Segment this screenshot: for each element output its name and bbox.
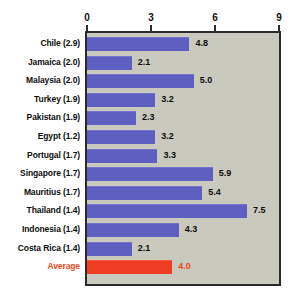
- bar-value-label: 2.3: [142, 112, 155, 123]
- bar-value-label: 5.4: [208, 187, 221, 198]
- bar: [87, 149, 157, 163]
- category-label: Egypt (1.2): [0, 131, 80, 142]
- bar-value-label: 2.1: [138, 57, 151, 68]
- bar-row: Pakistan (1.9)2.3: [0, 109, 293, 127]
- category-label: Mauritius (1.7): [0, 187, 80, 198]
- category-label: Indonesia (1.4): [0, 224, 80, 235]
- bar-value-label: 3.3: [163, 150, 176, 161]
- bar-value-label: 4.3: [185, 224, 198, 235]
- bar-row: Turkey (1.9)3.2: [0, 91, 293, 109]
- bar-row: Singapore (1.7)5.9: [0, 165, 293, 183]
- category-label: Malaysia (2.0): [0, 75, 80, 86]
- category-label: Costa Rica (1.4): [0, 243, 80, 254]
- bar-value-label: 5.0: [200, 75, 213, 86]
- bar-row: Thailand (1.4)7.5: [0, 202, 293, 220]
- bar: [87, 204, 247, 218]
- bar: [87, 93, 155, 107]
- bar: [87, 186, 202, 200]
- bar-value-label: 4.0: [178, 261, 191, 272]
- category-label-average: Average: [0, 261, 80, 272]
- bar-row: Portugal (1.7)3.3: [0, 147, 293, 165]
- bar-value-label: 2.1: [138, 243, 151, 254]
- x-axis-tick-label: 3: [148, 12, 154, 23]
- x-axis-tick-label: 9: [276, 12, 282, 23]
- bar-row: Average4.0: [0, 258, 293, 276]
- category-label: Portugal (1.7): [0, 150, 80, 161]
- bar: [87, 111, 136, 125]
- bar-row: Egypt (1.2)3.2: [0, 128, 293, 146]
- bar-value-label: 3.2: [161, 94, 174, 105]
- category-label: Singapore (1.7): [0, 168, 80, 179]
- bar: [87, 242, 132, 256]
- bar: [87, 37, 189, 51]
- bar: [87, 56, 132, 70]
- category-label: Turkey (1.9): [0, 94, 80, 105]
- bar-chart: 0369 Chile (2.9)4.8Jamaica (2.0)2.1Malay…: [0, 0, 293, 299]
- bar-rows: Chile (2.9)4.8Jamaica (2.0)2.1Malaysia (…: [0, 31, 293, 286]
- category-label: Thailand (1.4): [0, 205, 80, 216]
- x-axis-tick-label: 6: [212, 12, 218, 23]
- bar: [87, 223, 179, 237]
- bar-row: Costa Rica (1.4)2.1: [0, 240, 293, 258]
- bar: [87, 130, 155, 144]
- category-label: Pakistan (1.9): [0, 112, 80, 123]
- bar: [87, 74, 194, 88]
- bar-row: Malaysia (2.0)5.0: [0, 72, 293, 90]
- bar-row: Jamaica (2.0)2.1: [0, 54, 293, 72]
- bar-value-label: 5.9: [219, 168, 232, 179]
- x-axis: 0369: [87, 12, 279, 32]
- bar-row: Chile (2.9)4.8: [0, 35, 293, 53]
- bar: [87, 167, 213, 181]
- bar-row: Mauritius (1.7)5.4: [0, 184, 293, 202]
- bar-average: [87, 260, 172, 274]
- bar-row: Indonesia (1.4)4.3: [0, 221, 293, 239]
- category-label: Jamaica (2.0): [0, 57, 80, 68]
- bar-value-label: 7.5: [253, 205, 266, 216]
- x-axis-tick-label: 0: [84, 12, 90, 23]
- category-label: Chile (2.9): [0, 38, 80, 49]
- bar-value-label: 4.8: [195, 38, 208, 49]
- bar-value-label: 3.2: [161, 131, 174, 142]
